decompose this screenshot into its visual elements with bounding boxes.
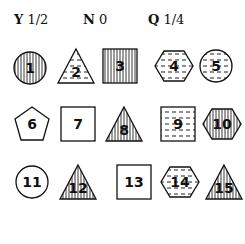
legend-item-n: N 0 [83, 12, 107, 27]
legend-item-y: Y 1/2 [14, 12, 48, 27]
svg-text:3: 3 [115, 58, 125, 74]
svg-text:1: 1 [25, 60, 35, 76]
svg-text:6: 6 [27, 116, 37, 132]
shape-triangle-2: 2 [56, 46, 96, 86]
legend-item-q: Q 1/4 [148, 12, 184, 27]
shape-triangle-12: 12 [58, 162, 98, 202]
svg-text:15: 15 [214, 180, 233, 196]
shape-triangle-15: 15 [204, 162, 244, 202]
shape-hexagon-10: 10 [202, 104, 242, 144]
svg-text:5: 5 [211, 58, 221, 74]
shape-square-3: 3 [100, 46, 140, 86]
shape-triangle-8: 8 [104, 104, 144, 144]
shape-square-9: 9 [158, 104, 198, 144]
shape-square-7: 7 [58, 104, 98, 144]
svg-text:12: 12 [68, 180, 87, 196]
shape-hexagon-14: 14 [160, 162, 200, 202]
svg-text:11: 11 [22, 174, 41, 190]
shape-hexagon-4: 4 [154, 46, 194, 86]
svg-text:7: 7 [73, 116, 83, 132]
shape-circle-11: 11 [12, 162, 52, 202]
svg-text:2: 2 [71, 64, 81, 80]
shape-circle-5: 5 [196, 46, 236, 86]
shape-pentagon-6: 6 [12, 104, 52, 144]
svg-text:10: 10 [212, 116, 232, 132]
svg-text:4: 4 [169, 58, 179, 74]
svg-text:14: 14 [170, 174, 190, 190]
shape-circle-1: 1 [10, 48, 50, 88]
svg-text:13: 13 [124, 174, 143, 190]
svg-text:8: 8 [119, 122, 129, 138]
svg-text:9: 9 [173, 116, 183, 132]
shape-square-13: 13 [114, 162, 154, 202]
